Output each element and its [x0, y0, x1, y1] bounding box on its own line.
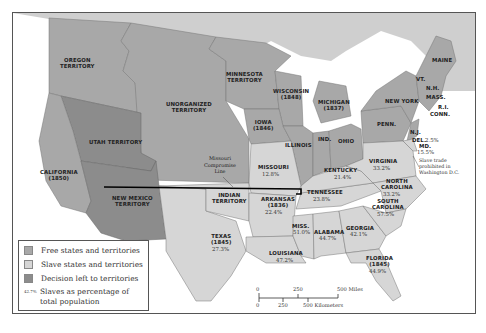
free-swatch-icon — [24, 246, 33, 255]
legend-item-decision: Decision left to territories — [24, 274, 138, 283]
label-indian-territory: INDIAN TERRITORY — [212, 192, 247, 204]
label-california: CALIFORNIA (1850) — [40, 169, 78, 181]
label-nh: N.H. — [426, 85, 440, 91]
label-ohio: OHIO — [338, 138, 354, 144]
pct-virginia: 33.2% — [373, 165, 390, 171]
pct-florida: 44.9% — [369, 268, 386, 274]
label-new-mexico-territory: NEW MEXICO TERRITORY — [112, 195, 153, 207]
legend-item-percentage-cont: total population — [40, 297, 100, 306]
pct-south-carolina: 57.5% — [377, 211, 394, 217]
legend-pct-label: Slaves as percentage of — [40, 287, 129, 296]
label-louisiana: LOUISIANA — [269, 250, 303, 256]
label-wisconsin: WISCONSIN (1848) — [273, 88, 309, 100]
label-iowa: IOWA (1846) — [253, 119, 274, 131]
label-maine: MAINE — [432, 57, 452, 63]
label-unorganized-territory: UNORGANIZED TERRITORY — [166, 101, 212, 113]
legend-item-percentage: 42.7% Slaves as percentage of — [24, 287, 129, 296]
pct-alabama: 44.7% — [319, 235, 336, 241]
label-kentucky: KENTUCKY — [324, 167, 357, 173]
scale-miles-250: 250 — [293, 286, 303, 292]
label-south-carolina: SOUTH CAROLINA — [372, 198, 404, 210]
label-vt: VT. — [416, 76, 425, 82]
pct-texas: 27.3% — [212, 246, 229, 252]
scale-km-500: 500 Kilometers — [303, 302, 343, 308]
legend-label-free: Free states and territories — [41, 246, 140, 255]
scale-miles-500: 500 Miles — [337, 286, 363, 292]
label-conn: CONN. — [430, 111, 450, 117]
pct-tennessee: 23.8% — [313, 196, 330, 202]
label-utah-territory: UTAH TERRITORY — [89, 139, 142, 145]
pct-missouri: 12.8% — [262, 171, 279, 177]
label-arkansas: ARKANSAS (1836) — [261, 196, 295, 208]
pct-georgia: 42.1% — [350, 231, 367, 237]
decision-swatch-icon — [24, 274, 33, 283]
label-ri: R.I. — [438, 104, 449, 110]
legend-label-slave: Slave states and territories — [41, 260, 143, 269]
label-texas: TEXAS (1845) — [211, 233, 232, 245]
legend-label-decision: Decision left to territories — [41, 274, 138, 283]
dc-slave-trade-note: Slave trade prohibited in Washington D.C… — [419, 158, 459, 177]
legend-pct-label-cont: total population — [40, 297, 100, 306]
label-oregon-territory: OREGON TERRITORY — [60, 57, 95, 69]
label-north-carolina: NORTH CAROLINA — [381, 178, 413, 190]
label-missouri: MISSOURI — [258, 164, 289, 170]
label-illinois: ILLINOIS — [285, 142, 312, 148]
label-new-york: NEW YORK — [385, 98, 418, 104]
pct-arkansas: 22.4% — [265, 209, 282, 215]
label-mass: MASS. — [426, 94, 446, 100]
label-florida: FLORIDA (1845) — [366, 255, 393, 267]
label-michigan: MICHIGAN (1837) — [318, 99, 350, 111]
slave-swatch-icon — [24, 260, 33, 269]
pct-kentucky: 21.4% — [334, 174, 351, 180]
label-indiana: IND. — [318, 136, 331, 142]
missouri-compromise-label: Missouri Compromise Line — [204, 155, 236, 175]
scale-km-250: 250 — [278, 302, 288, 308]
pct-louisiana: 47.2% — [276, 257, 293, 263]
legend-item-free: Free states and territories — [24, 246, 140, 255]
label-minnesota-territory: MINNESOTA TERRITORY — [226, 71, 263, 83]
label-penn: PENN. — [377, 121, 396, 127]
legend-item-slave: Slave states and territories — [24, 260, 143, 269]
scale-km-0: 0 — [256, 302, 259, 308]
legend-pct-sample: 42.7% — [24, 289, 38, 294]
pct-north-carolina: 33.2% — [383, 191, 400, 197]
label-virginia: VIRGINIA — [369, 158, 397, 164]
scale-miles-0: 0 — [256, 286, 259, 292]
pct-miss: 51.0% — [293, 229, 310, 235]
map-legend: Free states and territories Slave states… — [18, 240, 149, 311]
label-nj: N.J. — [410, 129, 421, 135]
pct-md: 15.5% — [417, 149, 434, 155]
label-tennessee: TENNESSEE — [307, 189, 343, 195]
